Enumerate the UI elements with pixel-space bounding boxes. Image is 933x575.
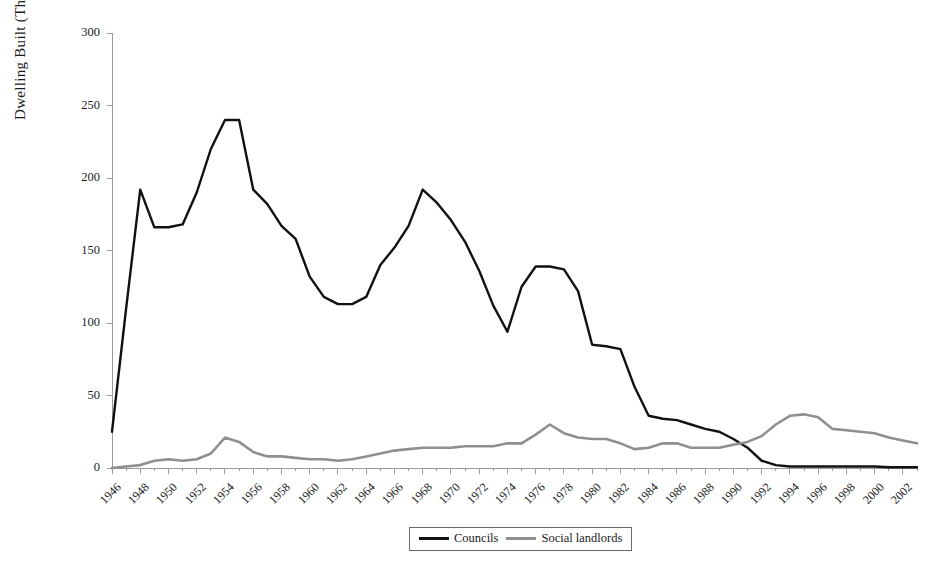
y-axis-title: Dwelling Built (Thousands) <box>12 0 29 120</box>
series-line-social-landlords <box>112 414 917 468</box>
y-tick-label: 150 <box>60 243 100 258</box>
y-tick-label: 250 <box>60 98 100 113</box>
line-chart: Dwelling Built (Thousands) 0501001502002… <box>0 0 933 575</box>
y-tick-label: 200 <box>60 170 100 185</box>
series-layer <box>112 120 917 468</box>
legend-entry-councils[interactable]: Councils <box>419 531 498 546</box>
tick-marks-layer <box>107 33 917 474</box>
y-tick-label: 100 <box>60 315 100 330</box>
legend-swatch-icon <box>506 537 536 540</box>
legend-entry-landlords[interactable]: Social landlords <box>506 531 622 546</box>
y-axis-title-container: Dwelling Built (Thousands) <box>0 0 60 480</box>
y-tick-label: 0 <box>60 460 100 475</box>
chart-legend: CouncilsSocial landlords <box>409 527 632 551</box>
y-tick-label: 300 <box>60 25 100 40</box>
axes-layer <box>112 33 917 468</box>
legend-label: Councils <box>454 531 498 546</box>
legend-swatch-icon <box>419 537 449 540</box>
legend-label: Social landlords <box>541 531 622 546</box>
y-tick-label: 50 <box>60 388 100 403</box>
